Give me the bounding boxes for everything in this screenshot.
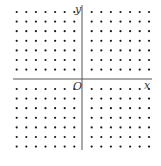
lattice-point <box>148 59 150 61</box>
lattice-point <box>73 40 75 42</box>
lattice-point <box>44 11 46 13</box>
lattice-point <box>91 88 93 90</box>
lattice-point <box>44 88 46 90</box>
lattice-point <box>73 69 75 71</box>
lattice-point <box>139 117 141 119</box>
lattice-point <box>25 107 27 109</box>
lattice-point <box>54 146 56 148</box>
lattice-point <box>54 11 56 13</box>
lattice-point <box>110 146 112 148</box>
lattice-point <box>16 59 18 61</box>
y-axis-label: y <box>74 3 82 16</box>
origin-label: O <box>73 80 82 93</box>
lattice-point <box>16 49 18 51</box>
lattice-point <box>54 40 56 42</box>
lattice-point <box>119 88 121 90</box>
lattice-point <box>16 88 18 90</box>
lattice-point <box>148 30 150 32</box>
lattice-point <box>148 21 150 23</box>
lattice-point <box>119 49 121 51</box>
lattice-point <box>16 107 18 109</box>
lattice-point <box>100 49 102 51</box>
lattice-point <box>139 59 141 61</box>
lattice-point <box>25 49 27 51</box>
lattice-point <box>25 88 27 90</box>
lattice-point <box>44 30 46 32</box>
lattice-point <box>110 30 112 32</box>
lattice-point <box>16 30 18 32</box>
lattice-point <box>44 69 46 71</box>
lattice-point <box>64 21 66 23</box>
lattice-point <box>91 21 93 23</box>
lattice-point <box>35 88 37 90</box>
lattice-point <box>139 30 141 32</box>
lattice-point <box>91 11 93 13</box>
lattice-point <box>91 49 93 51</box>
lattice-point <box>16 21 18 23</box>
lattice-point <box>119 69 121 71</box>
lattice-point <box>25 40 27 42</box>
lattice-point <box>25 146 27 148</box>
lattice-point <box>25 30 27 32</box>
lattice-point <box>16 98 18 100</box>
lattice-point <box>139 88 141 90</box>
lattice-point <box>73 146 75 148</box>
lattice-point <box>129 49 131 51</box>
lattice-plot: y x O <box>0 0 161 166</box>
lattice-point <box>35 146 37 148</box>
lattice-point <box>16 136 18 138</box>
lattice-point <box>119 21 121 23</box>
lattice-point <box>35 59 37 61</box>
lattice-point <box>148 98 150 100</box>
lattice-point <box>91 107 93 109</box>
lattice-point <box>139 98 141 100</box>
lattice-point <box>100 21 102 23</box>
lattice-point <box>73 30 75 32</box>
lattice-point <box>64 126 66 128</box>
coordinate-grid-diagram: y x O <box>0 0 161 166</box>
lattice-point <box>54 107 56 109</box>
lattice-point <box>64 11 66 13</box>
lattice-point <box>64 59 66 61</box>
lattice-point <box>110 21 112 23</box>
lattice-point <box>100 98 102 100</box>
lattice-point <box>139 136 141 138</box>
lattice-point <box>25 117 27 119</box>
lattice-point <box>119 117 121 119</box>
x-axis-label: x <box>144 79 151 92</box>
lattice-point <box>119 126 121 128</box>
lattice-point <box>35 107 37 109</box>
lattice-point <box>148 69 150 71</box>
lattice-point <box>73 136 75 138</box>
lattice-point <box>110 49 112 51</box>
lattice-point <box>35 69 37 71</box>
lattice-point <box>119 107 121 109</box>
lattice-point <box>129 40 131 42</box>
lattice-point <box>129 21 131 23</box>
lattice-point <box>35 126 37 128</box>
lattice-point <box>139 146 141 148</box>
lattice-point <box>91 69 93 71</box>
lattice-point <box>44 49 46 51</box>
lattice-point <box>110 117 112 119</box>
lattice-point <box>44 107 46 109</box>
lattice-point <box>139 40 141 42</box>
lattice-point <box>25 69 27 71</box>
lattice-point <box>44 98 46 100</box>
lattice-point <box>129 69 131 71</box>
lattice-point <box>73 49 75 51</box>
lattice-point <box>91 126 93 128</box>
lattice-point <box>25 59 27 61</box>
lattice-point <box>139 11 141 13</box>
lattice-point <box>73 21 75 23</box>
lattice-point <box>110 136 112 138</box>
lattice-point <box>139 21 141 23</box>
lattice-point <box>119 59 121 61</box>
lattice-point <box>148 146 150 148</box>
lattice-point <box>100 59 102 61</box>
lattice-point <box>100 69 102 71</box>
lattice-point <box>73 117 75 119</box>
lattice-point <box>16 126 18 128</box>
lattice-point <box>100 107 102 109</box>
lattice-point <box>64 107 66 109</box>
